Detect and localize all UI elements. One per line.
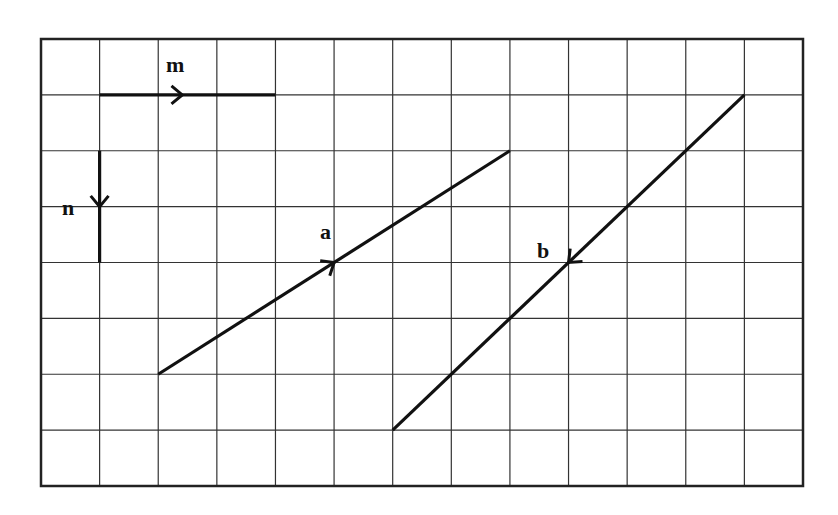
grid [41, 39, 803, 486]
vector-grid-diagram: mnab [0, 0, 838, 515]
vector-label-b: b [537, 238, 549, 263]
vector-m: m [100, 52, 276, 104]
vectors: mnab [62, 52, 744, 430]
vector-label-n: n [62, 195, 74, 220]
vector-label-a: a [320, 219, 331, 244]
vector-label-m: m [166, 52, 184, 77]
